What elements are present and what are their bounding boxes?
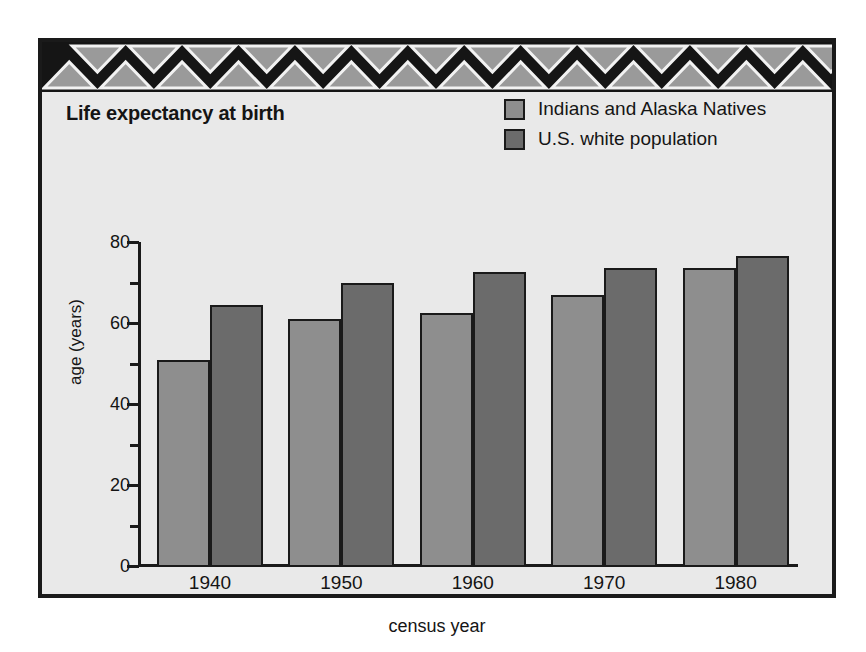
bar-1980-series1 xyxy=(683,268,736,567)
bar-1940-series2 xyxy=(210,305,263,567)
bar-group-1940 xyxy=(149,242,280,567)
figure-frame: Life expectancy at birth Indians and Ala… xyxy=(38,38,836,598)
plot-area: age (years) 020406080 194019501960197019… xyxy=(42,164,832,594)
legend-swatch-indians xyxy=(504,99,525,120)
triangle-pattern-svg xyxy=(42,42,832,92)
bar-1960-series2 xyxy=(473,272,526,567)
y-tick-major-20 xyxy=(127,484,139,487)
x-tick-label-1950: 1950 xyxy=(320,572,362,594)
x-tick-label-1960: 1960 xyxy=(452,572,494,594)
y-tick-minor-50 xyxy=(130,363,139,366)
y-tick-minor-70 xyxy=(130,282,139,285)
legend-swatch-us-white xyxy=(504,129,525,150)
x-axis-tick-labels: 19401950196019701980 xyxy=(141,572,798,602)
bar-group-1970 xyxy=(543,242,674,567)
x-tick-label-1980: 1980 xyxy=(714,572,756,594)
bar-1950-series2 xyxy=(341,283,394,567)
bar-1970-series2 xyxy=(604,268,657,567)
bar-1980-series2 xyxy=(736,256,789,567)
y-tick-minor-30 xyxy=(130,444,139,447)
y-tick-major-80 xyxy=(127,241,139,244)
header-row: Life expectancy at birth Indians and Ala… xyxy=(42,92,832,164)
legend-label-indians: Indians and Alaska Natives xyxy=(538,98,766,120)
bar-1970-series1 xyxy=(551,295,604,567)
y-axis-label: age (years) xyxy=(66,262,86,422)
y-tick-major-40 xyxy=(127,403,139,406)
legend-item-indians: Indians and Alaska Natives xyxy=(504,94,766,124)
bar-group-1960 xyxy=(412,242,543,567)
legend-item-us-white: U.S. white population xyxy=(504,124,766,154)
bar-group-1950 xyxy=(280,242,411,567)
bar-group-1980 xyxy=(675,242,806,567)
legend: Indians and Alaska Natives U.S. white po… xyxy=(504,94,766,154)
bar-1950-series1 xyxy=(288,319,341,567)
bar-1940-series1 xyxy=(157,360,210,567)
y-tick-major-0 xyxy=(127,565,139,568)
chart-title: Life expectancy at birth xyxy=(66,102,285,125)
bar-1960-series1 xyxy=(420,313,473,567)
x-tick-label-1940: 1940 xyxy=(189,572,231,594)
legend-label-us-white: U.S. white population xyxy=(538,128,718,150)
bar-series-container xyxy=(141,242,798,567)
triangle-border-pattern xyxy=(42,42,832,92)
y-tick-minor-10 xyxy=(130,525,139,528)
y-tick-major-60 xyxy=(127,322,139,325)
x-axis-label: census year xyxy=(42,616,832,637)
x-tick-label-1970: 1970 xyxy=(583,572,625,594)
